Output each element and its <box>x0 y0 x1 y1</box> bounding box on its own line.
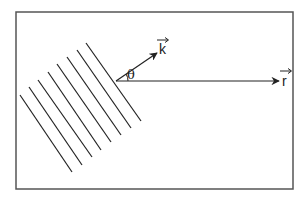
k-vector-arrow <box>116 53 157 81</box>
r-label: r <box>282 73 287 89</box>
wavefront-line <box>57 64 111 142</box>
wave-vector-diagram: θ k r <box>0 0 308 202</box>
r-vector-label: r <box>280 69 292 90</box>
k-label: k <box>159 41 167 57</box>
wavefront-line <box>20 95 72 172</box>
wavefront-line <box>48 72 101 150</box>
wavefront-line <box>38 80 92 157</box>
diagram-frame <box>16 12 293 189</box>
wavefront-line <box>77 50 131 128</box>
wavefront-line <box>86 43 141 121</box>
wavefront-line <box>67 57 121 135</box>
wavefront-line <box>29 87 82 165</box>
k-vector-label: k <box>157 38 169 58</box>
theta-label: θ <box>127 67 135 82</box>
wavefront-lines <box>20 43 141 172</box>
